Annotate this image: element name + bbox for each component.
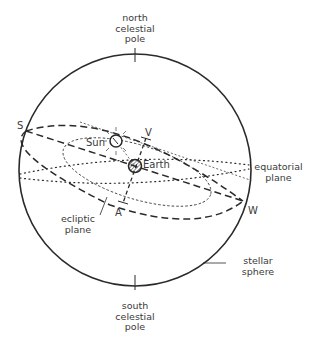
south-pole-line3: pole: [110, 322, 160, 333]
ecliptic-plane-label: ecliptic plane: [58, 214, 98, 235]
stellar-sphere-label: stellar sphere: [238, 256, 278, 277]
equatorial-plane-label: equatorial plane: [251, 162, 306, 183]
earth-icon: [129, 160, 142, 173]
point-v-label: V: [145, 127, 152, 138]
stellar-line2: sphere: [238, 267, 278, 278]
north-pole-line1: north: [110, 13, 160, 24]
sun-label: Sun: [86, 137, 105, 148]
equatorial-line1: equatorial: [251, 162, 306, 173]
a-tick: [118, 201, 128, 204]
stellar-line1: stellar: [238, 256, 278, 267]
point-s-label: S: [17, 120, 23, 131]
point-a-label: A: [115, 207, 122, 218]
earth-label: Earth: [143, 159, 170, 170]
south-pole-line1: south: [110, 301, 160, 312]
point-w-label: W: [248, 205, 258, 216]
south-pole-label: south celestial pole: [110, 301, 160, 333]
ecliptic-line2: plane: [58, 225, 98, 236]
equatorial-line2: plane: [251, 173, 306, 184]
ecliptic-plane-front: [21, 131, 243, 219]
sun-icon: [103, 127, 126, 155]
north-pole-label: north celestial pole: [110, 13, 160, 45]
ecliptic-line1: ecliptic: [58, 214, 98, 225]
north-pole-line3: pole: [110, 34, 160, 45]
